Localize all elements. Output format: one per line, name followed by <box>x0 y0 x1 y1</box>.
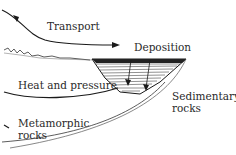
deposition-label: Deposition <box>134 42 191 53</box>
sedimentary-label-line1: Sedimentary <box>172 91 236 102</box>
sedimentary-label-line2: rocks <box>172 103 201 114</box>
rock-cycle-diagram: Transport Deposition Heat and pressure S… <box>0 0 236 155</box>
metamorphic-label-line1: Metamorphic <box>18 118 89 129</box>
transport-arrow-head <box>112 42 120 48</box>
heat-pressure-label: Heat and pressure <box>18 80 117 91</box>
metamorphic-label-line2: rocks <box>18 130 47 141</box>
metamorphic-arrow <box>4 125 9 128</box>
transport-label: Transport <box>47 21 100 32</box>
